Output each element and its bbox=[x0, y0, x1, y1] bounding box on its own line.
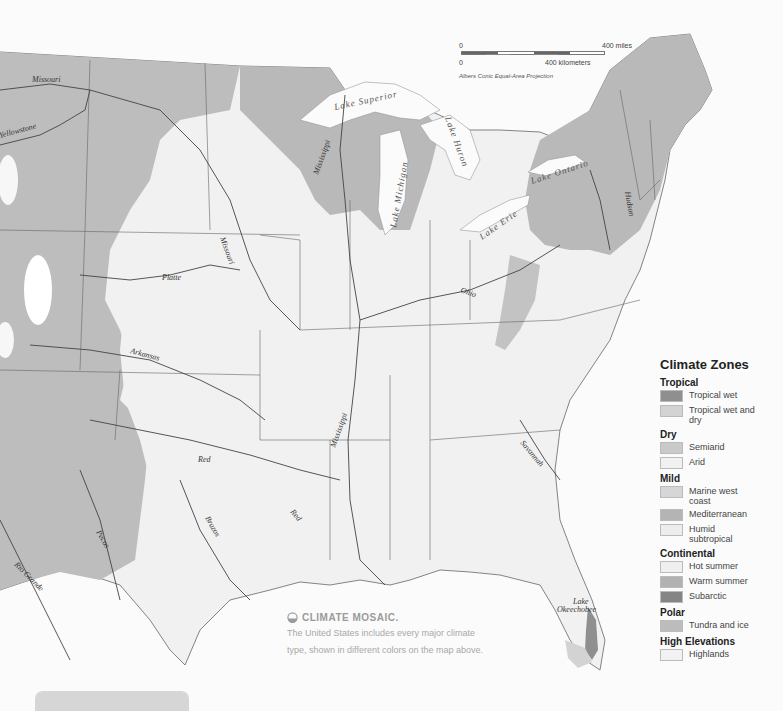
legend-group-dry: Dry Semiarid Arid bbox=[660, 429, 783, 469]
swatch-semiarid bbox=[660, 442, 683, 454]
scale-bar: 0 400 miles 0 400 kilometers Albers Coni… bbox=[459, 42, 639, 82]
swatch-tropical-wet bbox=[660, 390, 683, 402]
legend-label: Tropical wet and dry bbox=[689, 405, 759, 425]
map-caption: CLIMATE MOSAIC. The United States includ… bbox=[287, 612, 547, 659]
legend-item-tropical-wet: Tropical wet bbox=[660, 390, 783, 402]
legend-label: Highlands bbox=[689, 649, 729, 659]
swatch-marine-west-coast bbox=[660, 486, 683, 498]
legend-group-name: Dry bbox=[660, 429, 783, 440]
globe-half-icon bbox=[287, 612, 298, 623]
legend-group-tropical: Tropical Tropical wet Tropical wet and d… bbox=[660, 377, 783, 425]
legend-item-semiarid: Semiarid bbox=[660, 442, 783, 454]
scale-miles-label: 400 miles bbox=[602, 42, 632, 49]
bottom-tab bbox=[35, 691, 189, 711]
legend-item-warm-summer: Warm summer bbox=[660, 576, 783, 588]
swatch-hot-summer bbox=[660, 561, 683, 573]
legend-item-subarctic: Subarctic bbox=[660, 591, 783, 603]
legend-item-highlands: Highlands bbox=[660, 649, 783, 661]
legend-label: Subarctic bbox=[689, 591, 727, 601]
legend-label: Tropical wet bbox=[689, 390, 737, 400]
legend-label: Hot summer bbox=[689, 561, 738, 571]
legend-group-name: Polar bbox=[660, 607, 783, 618]
projection-label: Albers Conic Equal-Area Projection bbox=[459, 73, 553, 79]
scale-km-label: 400 kilometers bbox=[545, 59, 591, 66]
legend-label: Marine west coast bbox=[689, 486, 759, 506]
legend-group-name: Continental bbox=[660, 548, 783, 559]
scale-miles-zero: 0 bbox=[459, 42, 463, 49]
swatch-highlands bbox=[660, 649, 683, 661]
scale-km-zero: 0 bbox=[459, 59, 463, 66]
legend-group-mild: Mild Marine west coast Mediterranean Hum… bbox=[660, 473, 783, 544]
river-label-platte: Platte bbox=[161, 273, 182, 282]
legend-group-name: Mild bbox=[660, 473, 783, 484]
legend-item-tropical-wet-dry: Tropical wet and dry bbox=[660, 405, 783, 425]
caption-heading: CLIMATE MOSAIC. bbox=[302, 612, 399, 623]
caption-line-1: The United States includes every major c… bbox=[287, 625, 547, 642]
scale-seg bbox=[534, 54, 558, 55]
legend-title: Climate Zones bbox=[660, 357, 783, 372]
swatch-mediterranean bbox=[660, 509, 683, 521]
caption-line-2: type, shown in different colors on the m… bbox=[287, 642, 547, 659]
river-label-red-north: Red bbox=[197, 455, 211, 464]
scale-bar-graphic bbox=[461, 51, 605, 55]
legend-group-name: Tropical bbox=[660, 377, 783, 388]
legend-group-name: High Elevations bbox=[660, 636, 783, 647]
lake-label-okeechobee-2: Okeechobee bbox=[557, 605, 597, 614]
legend-group-polar: Polar Tundra and ice bbox=[660, 607, 783, 632]
swatch-warm-summer bbox=[660, 576, 683, 588]
legend-label: Warm summer bbox=[689, 576, 748, 586]
legend-label: Arid bbox=[689, 457, 705, 467]
legend-group-high-elevations: High Elevations Highlands bbox=[660, 636, 783, 661]
swatch-humid-subtropical bbox=[660, 524, 683, 536]
caption-heading-row: CLIMATE MOSAIC. bbox=[287, 612, 547, 623]
caption-body: The United States includes every major c… bbox=[287, 625, 547, 659]
legend-item-arid: Arid bbox=[660, 457, 783, 469]
legend-group-continental: Continental Hot summer Warm summer Subar… bbox=[660, 548, 783, 603]
legend-item-hot-summer: Hot summer bbox=[660, 561, 783, 573]
swatch-tropical-wet-dry bbox=[660, 405, 683, 417]
legend-item-marine-west-coast: Marine west coast bbox=[660, 486, 783, 506]
scale-seg bbox=[486, 54, 510, 55]
climate-legend: Climate Zones Tropical Tropical wet Trop… bbox=[660, 357, 783, 665]
legend-label: Semiarid bbox=[689, 442, 725, 452]
swatch-arid bbox=[660, 457, 683, 469]
legend-label: Tundra and ice bbox=[689, 620, 749, 630]
swatch-subarctic bbox=[660, 591, 683, 603]
legend-label: Humid subtropical bbox=[689, 524, 759, 544]
legend-label: Mediterranean bbox=[689, 509, 747, 519]
legend-item-tundra-ice: Tundra and ice bbox=[660, 620, 783, 632]
river-label-missouri: Missouri bbox=[31, 75, 60, 84]
swatch-tundra-ice bbox=[660, 620, 683, 632]
legend-item-humid-subtropical: Humid subtropical bbox=[660, 524, 783, 544]
legend-item-mediterranean: Mediterranean bbox=[660, 509, 783, 521]
zone-highlands-patch bbox=[24, 255, 52, 325]
